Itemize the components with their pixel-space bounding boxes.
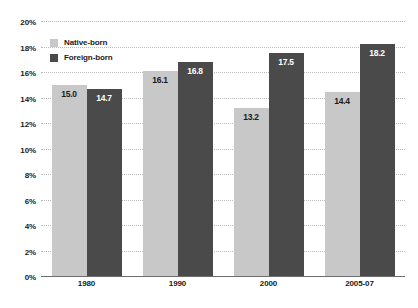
y-axis-tick-label: 18% — [20, 43, 36, 52]
y-axis-tick-label: 16% — [20, 69, 36, 78]
legend-swatch-icon-foreign-born — [50, 54, 58, 62]
bar-foreign-born[interactable]: 14.7 — [87, 89, 122, 276]
bar-value-label: 16.1 — [143, 75, 178, 85]
bar-value-label: 15.0 — [52, 89, 87, 99]
bar-native-born[interactable]: 14.4 — [325, 92, 360, 276]
x-axis-labels: 1980199020002005-07 — [41, 279, 405, 288]
bar-native-born[interactable]: 13.2 — [234, 108, 269, 276]
bar-group: 13.217.5 — [223, 21, 314, 276]
legend-item-foreign-born: Foreign-born — [50, 51, 113, 64]
y-axis-tick-label: 14% — [20, 94, 36, 103]
bar-group: 16.116.8 — [132, 21, 223, 276]
bar-value-label: 16.8 — [178, 66, 213, 76]
x-axis-tick-label: 1980 — [41, 279, 132, 288]
x-axis-tick-label: 1990 — [132, 279, 223, 288]
bar-native-born[interactable]: 15.0 — [52, 85, 87, 276]
chart-legend: Native-born Foreign-born — [50, 36, 113, 66]
legend-swatch-icon-native-born — [50, 39, 58, 47]
bar-value-label: 14.7 — [87, 93, 122, 103]
y-axis-tick-label: 12% — [20, 120, 36, 129]
legend-label-native-born: Native-born — [64, 38, 107, 47]
bar-value-label: 14.4 — [325, 96, 360, 106]
bar-group: 14.418.2 — [314, 21, 405, 276]
bar-value-label: 13.2 — [234, 112, 269, 122]
bar-value-label: 17.5 — [269, 57, 304, 67]
y-axis-tick-label: 0% — [25, 273, 36, 282]
bar-foreign-born[interactable]: 16.8 — [178, 62, 213, 276]
bar-native-born[interactable]: 16.1 — [143, 71, 178, 276]
y-axis-tick-label: 20% — [20, 18, 36, 27]
bar-foreign-born[interactable]: 18.2 — [360, 44, 395, 276]
y-axis-tick-label: 6% — [25, 196, 36, 205]
y-axis-tick-label: 8% — [25, 171, 36, 180]
bar-chart: 20%18%16%14%12%10%8%6%4%2%0% 15.014.716.… — [0, 0, 418, 308]
x-axis-tick-label: 2000 — [223, 279, 314, 288]
bar-value-label: 18.2 — [360, 48, 395, 58]
bar-foreign-born[interactable]: 17.5 — [269, 53, 304, 276]
x-axis-tick-label: 2005-07 — [314, 279, 405, 288]
y-axis-tick-label: 2% — [25, 247, 36, 256]
y-axis-tick-label: 4% — [25, 222, 36, 231]
y-axis-tick-label: 10% — [20, 145, 36, 154]
legend-label-foreign-born: Foreign-born — [64, 53, 113, 62]
legend-item-native-born: Native-born — [50, 36, 113, 49]
axis-baseline: 0% — [41, 276, 405, 277]
